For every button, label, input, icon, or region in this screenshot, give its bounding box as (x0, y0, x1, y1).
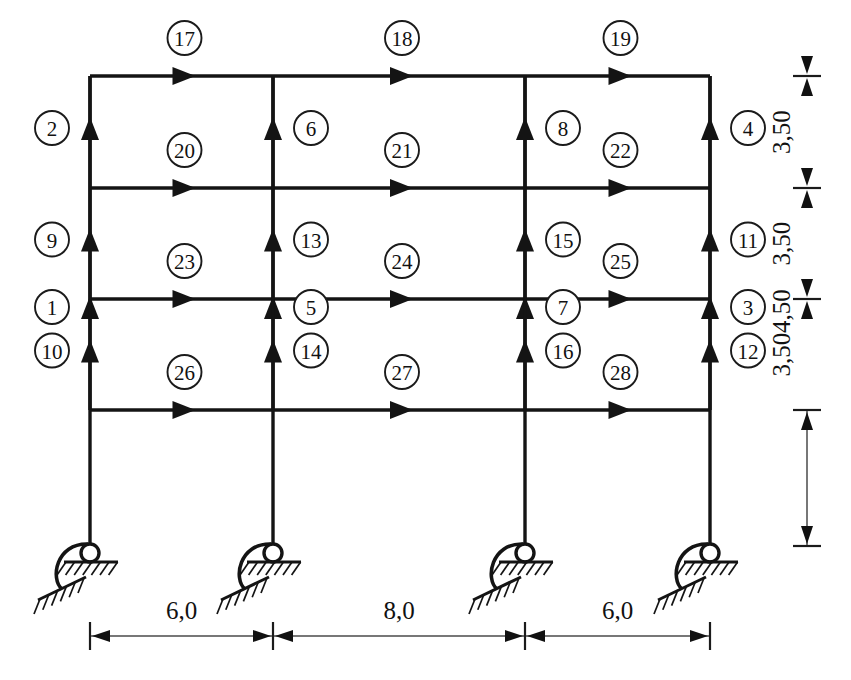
diagram-canvas: 3,503,503,504,506,08,06,0 12910561314781… (0, 0, 851, 680)
beam-label-17: 17 (168, 21, 202, 55)
support-2-hatch (274, 562, 283, 575)
column-member-11[interactable] (701, 188, 719, 299)
column-member-6[interactable] (264, 76, 282, 188)
beam-label-21-text: 21 (392, 139, 413, 163)
beam-label-19-text: 19 (610, 27, 631, 51)
horizontal-dimension-label-2: 6,0 (602, 597, 633, 624)
support-3-hatch (501, 562, 510, 575)
support-4-hatch (711, 562, 720, 575)
column-member-9[interactable] (81, 188, 99, 299)
hdim-arrow-right-0 (253, 630, 271, 642)
beam-label-18-text: 18 (392, 27, 413, 51)
beam-member-22[interactable] (525, 179, 710, 197)
beam-member-26[interactable] (90, 401, 273, 419)
beam-label-23-text: 23 (174, 250, 195, 274)
column-label-11: 11 (731, 223, 765, 257)
hdim-arrow-left-2 (527, 630, 545, 642)
beam-direction-arrow-21 (390, 179, 413, 197)
support-4-hinge-circle (701, 544, 719, 562)
column-direction-arrow-15 (516, 229, 534, 252)
column-member-2[interactable] (81, 76, 99, 188)
support-1-hinge-circle (81, 544, 99, 562)
column-label-7-text: 7 (558, 296, 569, 320)
vdim-arrow-top-3 (801, 78, 813, 96)
support-4-hatch-2 (654, 599, 660, 614)
column-direction-arrow-11 (701, 229, 719, 252)
beam-member-21[interactable] (273, 179, 525, 197)
support-3 (469, 544, 553, 614)
support-3-hatch (518, 562, 527, 575)
beam-label-22: 22 (604, 133, 638, 167)
beam-member-17[interactable] (90, 67, 273, 85)
beam-direction-arrow-19 (609, 67, 632, 85)
vdim-arrow-bottom-0 (801, 279, 813, 297)
hdim-arrow-left-1 (275, 630, 293, 642)
support-1 (34, 544, 118, 614)
vdim-arrow-bottom-2 (801, 56, 813, 74)
support-4 (654, 544, 738, 614)
column-direction-arrow-12 (701, 340, 719, 363)
column-label-6-text: 6 (306, 117, 317, 141)
vertical-dimension-label-1: 3,50 (768, 222, 795, 266)
column-direction-arrow-14 (264, 340, 282, 363)
beam-label-27: 27 (385, 355, 419, 389)
column-direction-arrow-6 (264, 117, 282, 140)
support-3-hatch (535, 562, 544, 575)
beam-member-23[interactable] (90, 290, 273, 308)
vdim-arrow-top-2 (801, 190, 813, 208)
beam-direction-arrow-20 (173, 179, 196, 197)
support-3-hinge-circle (516, 544, 534, 562)
column-label-5: 5 (294, 290, 328, 324)
hdim-arrow-left-0 (92, 630, 110, 642)
beam-label-26-text: 26 (174, 361, 195, 385)
beam-label-24: 24 (385, 244, 419, 278)
column-label-9: 9 (35, 223, 69, 257)
horizontal-dimension-2: 6,0 (527, 597, 708, 643)
vdim-arrow-bottom-1 (801, 168, 813, 186)
column-direction-arrow-9 (81, 229, 99, 252)
support-1-hatch (91, 562, 100, 575)
horizontal-dimension-0: 6,0 (92, 597, 271, 643)
column-label-10: 10 (35, 334, 69, 368)
column-member-4[interactable] (701, 76, 719, 188)
hdim-arrow-right-2 (690, 630, 708, 642)
column-direction-arrow-13 (264, 229, 282, 252)
beam-member-28[interactable] (525, 401, 710, 419)
support-2-hatch (266, 562, 275, 575)
column-label-12: 12 (731, 334, 765, 368)
beam-label-20-text: 20 (174, 139, 195, 163)
beam-member-20[interactable] (90, 179, 273, 197)
horizontal-dimension-label-0: 6,0 (166, 597, 197, 624)
beam-label-26: 26 (168, 355, 202, 389)
vertical-dimension-label-2: 3,50 (768, 110, 795, 154)
column-label-13: 13 (294, 223, 328, 257)
column-label-15-text: 15 (553, 229, 574, 253)
vdim-arrow-top-0 (801, 412, 813, 430)
beam-direction-arrow-17 (173, 67, 196, 85)
beam-direction-arrow-22 (609, 179, 632, 197)
column-label-1-text: 1 (47, 296, 58, 320)
beam-member-19[interactable] (525, 67, 710, 85)
column-label-2-text: 2 (47, 117, 58, 141)
beam-member-27[interactable] (273, 401, 525, 419)
vertical-dimension-2: 3,50 (768, 56, 814, 208)
beam-label-27-text: 27 (392, 361, 413, 385)
support-2-hatch (257, 562, 266, 575)
column-direction-arrow-16 (516, 340, 534, 363)
column-label-7: 7 (546, 290, 580, 324)
support-2 (217, 544, 301, 614)
column-label-16: 16 (546, 334, 580, 368)
column-direction-arrow-10 (81, 340, 99, 363)
column-label-5-text: 5 (306, 296, 317, 320)
horizontal-dimension-label-1: 8,0 (383, 597, 414, 624)
support-1-hatch (66, 562, 75, 575)
column-member-8[interactable] (516, 76, 534, 188)
beam-direction-arrow-26 (173, 401, 196, 419)
beam-member-18[interactable] (273, 67, 525, 85)
column-direction-arrow-2 (81, 117, 99, 140)
support-3-hatch (509, 562, 518, 575)
support-3-hatch (526, 562, 535, 575)
column-member-15[interactable] (516, 188, 534, 299)
support-1-hatch (83, 562, 92, 575)
column-member-13[interactable] (264, 188, 282, 299)
